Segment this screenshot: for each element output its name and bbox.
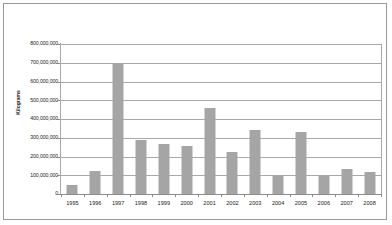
x-axis-tick-label: 1998 (130, 200, 153, 206)
x-axis-tick-mark (61, 194, 62, 197)
bar-slot (61, 44, 84, 194)
x-axis-tick-label: 2004 (267, 200, 290, 206)
x-axis-tick-label: 1996 (84, 200, 107, 206)
y-axis-tick-label: 300,000,000 (30, 135, 58, 140)
bar-slot (267, 44, 290, 194)
x-axis-tick-label: 2008 (358, 200, 381, 206)
x-axis-tick-label: 2006 (312, 200, 335, 206)
y-axis-tick-label: 700,000,000 (30, 60, 58, 65)
x-axis-tick-label: 2000 (175, 200, 198, 206)
bar-slot (107, 44, 130, 194)
y-axis-tick-mark (57, 194, 60, 195)
x-axis-tick-mark (290, 194, 291, 197)
x-axis-tick-label: 2001 (198, 200, 221, 206)
bar-slot (84, 44, 107, 194)
bar-slot (244, 44, 267, 194)
bar-slot (290, 44, 313, 194)
y-axis-tick-label: 600,000,000 (30, 79, 58, 84)
x-axis-tick-label: 1995 (61, 200, 84, 206)
x-axis-tick-mark (175, 194, 176, 197)
bar-slot (175, 44, 198, 194)
x-axis-tick-label: 1999 (152, 200, 175, 206)
y-axis-tick-label: 100,000,000 (30, 173, 58, 178)
bar[interactable] (90, 171, 101, 194)
bar[interactable] (295, 132, 306, 194)
x-axis-tick-label: 2003 (244, 200, 267, 206)
y-axis-tick-mark (57, 44, 60, 45)
x-axis-tick-mark (335, 194, 336, 197)
bar[interactable] (158, 144, 169, 194)
bar[interactable] (135, 140, 146, 194)
chart-frame: 0100,000,000200,000,000300,000,000400,00… (3, 3, 387, 220)
y-axis-tick-label: 500,000,000 (30, 98, 58, 103)
bar[interactable] (204, 108, 215, 194)
plot-right-border (381, 44, 382, 194)
y-axis-tick-labels: 0100,000,000200,000,000300,000,000400,00… (4, 4, 58, 221)
plot-area (61, 44, 381, 194)
x-axis-tick-mark (381, 194, 382, 197)
bar-slot (130, 44, 153, 194)
y-axis-tick-mark (57, 175, 60, 176)
bar[interactable] (341, 169, 352, 194)
x-axis-tick-label: 2002 (221, 200, 244, 206)
x-axis-tick-mark (244, 194, 245, 197)
y-axis-tick-mark (57, 119, 60, 120)
y-axis-tick-label: 400,000,000 (30, 116, 58, 121)
bar-slot (335, 44, 358, 194)
y-axis-tick-label: 200,000,000 (30, 154, 58, 159)
y-axis-tick-mark (57, 63, 60, 64)
x-axis-tick-mark (107, 194, 108, 197)
bar-slot (312, 44, 335, 194)
bar[interactable] (364, 172, 375, 195)
bar-slot (152, 44, 175, 194)
x-axis-tick-label: 2007 (335, 200, 358, 206)
bar[interactable] (67, 185, 78, 194)
bar-slot (221, 44, 244, 194)
bar[interactable] (113, 63, 124, 194)
x-axis-tick-mark (221, 194, 222, 197)
y-axis-title: Kilograms (16, 73, 21, 133)
bar-slot (198, 44, 221, 194)
y-axis-tick-mark (57, 100, 60, 101)
x-axis-tick-mark (152, 194, 153, 197)
x-axis-tick-label: 2005 (290, 200, 313, 206)
bar[interactable] (227, 152, 238, 194)
bar-slot (358, 44, 381, 194)
y-axis-tick-mark (57, 138, 60, 139)
x-axis-tick-mark (198, 194, 199, 197)
x-axis-tick-mark (312, 194, 313, 197)
bar[interactable] (318, 176, 329, 194)
x-axis-tick-mark (84, 194, 85, 197)
y-axis-tick-mark (57, 157, 60, 158)
bar[interactable] (181, 146, 192, 194)
bar[interactable] (273, 176, 284, 194)
y-axis-tick-label: 800,000,000 (30, 41, 58, 46)
y-axis-tick-mark (57, 82, 60, 83)
x-axis-tick-label: 1997 (107, 200, 130, 206)
x-axis-tick-mark (358, 194, 359, 197)
bar[interactable] (250, 130, 261, 194)
x-axis-tick-mark (130, 194, 131, 197)
x-axis-tick-mark (267, 194, 268, 197)
